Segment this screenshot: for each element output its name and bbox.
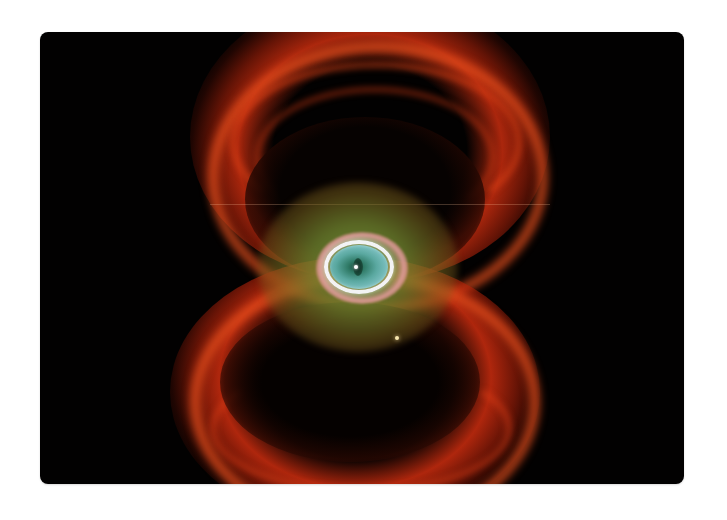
upper-lobe-inner-ring [230,62,522,224]
upper-lobe-cavity [245,117,485,282]
green-halo [258,182,458,352]
scan-artifact-line [210,204,550,205]
lower-lobe-cavity [220,302,480,462]
nebula-photo: Hourglass planetary nebula [40,32,684,484]
central-star [354,265,358,269]
upper-lobe-outer-ring [208,42,548,312]
upper-lobe-glow [190,32,550,282]
white-ring [324,240,394,294]
lower-lobe-glow [170,257,540,484]
upper-lobe-innermost-ring [255,87,495,227]
page-canvas: Hourglass planetary nebula [0,0,727,520]
eye-core [330,245,388,289]
lower-lobe-inner-ring [210,362,512,484]
lower-lobe-outer-ring [190,272,540,484]
pink-ring [316,232,408,304]
eye-pupil [353,258,363,276]
field-star [395,336,399,340]
